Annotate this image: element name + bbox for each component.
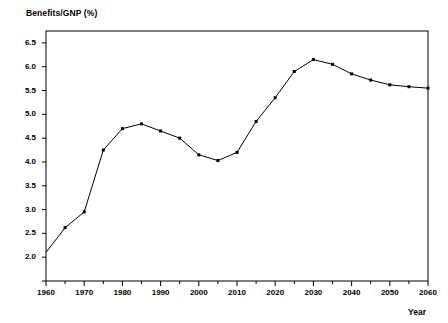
data-point-marker [197, 153, 200, 156]
data-point-marker [274, 96, 277, 99]
data-series-line [46, 60, 428, 253]
data-point-marker [350, 72, 353, 75]
data-point-marker [64, 226, 67, 229]
data-point-marker [427, 87, 430, 90]
data-point-marker [331, 63, 334, 66]
chart-figure: Benefits/GNP (%) Year 2.02.53.03.54.04.5… [0, 0, 448, 323]
plot-area [0, 0, 448, 323]
data-point-marker [83, 210, 86, 213]
data-point-marker [369, 79, 372, 82]
data-point-marker [140, 122, 143, 125]
y-axis-ticks [42, 43, 46, 281]
data-point-marker [236, 151, 239, 154]
axes-spines [46, 31, 428, 281]
data-point-marker [121, 127, 124, 130]
data-point-marker [159, 130, 162, 133]
x-axis-ticks [46, 281, 428, 286]
data-point-marker [255, 120, 258, 123]
data-point-marker [102, 149, 105, 152]
data-point-marker [388, 83, 391, 86]
data-point-marker [312, 58, 315, 61]
data-series-markers [64, 58, 430, 229]
data-point-marker [293, 70, 296, 73]
data-point-marker [178, 137, 181, 140]
data-point-marker [216, 159, 219, 162]
data-point-marker [407, 85, 410, 88]
